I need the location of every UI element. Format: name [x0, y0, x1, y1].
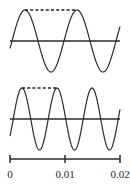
time-axis-group: 00.010.02	[7, 155, 129, 180]
waveform-canvas: 00.010.02	[0, 0, 130, 186]
axis-tick-label-2: 0.02	[110, 168, 129, 180]
axis-tick-labels: 00.010.02	[7, 168, 129, 180]
axis-tick-label-1: 0.01	[55, 168, 74, 180]
upper-waveform-group	[10, 10, 120, 72]
waveform-figure: 00.010.02	[0, 0, 130, 186]
lower-waveform-group	[10, 88, 120, 150]
axis-tick-label-0: 0	[7, 168, 13, 180]
